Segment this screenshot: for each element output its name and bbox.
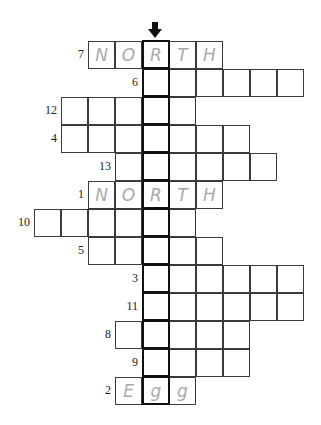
clue-number: 1: [62, 187, 84, 202]
crossword-cell[interactable]: [169, 237, 196, 265]
crossword-row-11: 11: [0, 293, 321, 321]
crossword-cell[interactable]: [142, 348, 170, 377]
crossword-cell[interactable]: [115, 321, 142, 349]
crossword-cell[interactable]: [169, 209, 196, 237]
crossword-cell[interactable]: [196, 153, 223, 181]
crossword-cell[interactable]: [142, 68, 170, 97]
crossword-cell[interactable]: [196, 293, 223, 321]
crossword-cell[interactable]: H: [196, 181, 223, 209]
clue-number: 10: [8, 215, 30, 230]
crossword-row-9: 9: [0, 349, 321, 377]
crossword-cell[interactable]: [223, 293, 250, 321]
crossword-cell[interactable]: [169, 69, 196, 97]
crossword-cell[interactable]: [115, 237, 142, 265]
crossword-cell[interactable]: [142, 152, 170, 181]
crossword-cell[interactable]: N: [88, 41, 115, 69]
crossword-row-7: 7NORTH: [0, 41, 321, 69]
crossword-cell[interactable]: [34, 209, 61, 237]
crossword-cell[interactable]: [223, 349, 250, 377]
crossword-cell[interactable]: [196, 237, 223, 265]
crossword-cell[interactable]: [88, 97, 115, 125]
clue-number: 13: [89, 159, 111, 174]
crossword-cell[interactable]: [142, 264, 170, 293]
crossword-row-3: 3: [0, 265, 321, 293]
crossword-cell[interactable]: [277, 293, 304, 321]
crossword-cell[interactable]: [169, 153, 196, 181]
crossword-cell[interactable]: R: [142, 180, 170, 209]
crossword-row-8: 8: [0, 321, 321, 349]
crossword-cell[interactable]: [223, 321, 250, 349]
crossword-cell[interactable]: [88, 209, 115, 237]
crossword-grid: 7NORTH6124131NORTH105311892Egg: [0, 0, 321, 425]
crossword-row-4: 4: [0, 125, 321, 153]
clue-number: 11: [116, 299, 138, 314]
crossword-cell[interactable]: [223, 69, 250, 97]
crossword-cell[interactable]: [142, 96, 170, 125]
crossword-cell[interactable]: [115, 209, 142, 237]
clue-number: 6: [116, 75, 138, 90]
clue-number: 7: [62, 47, 84, 62]
crossword-cell[interactable]: [223, 153, 250, 181]
crossword-row-6: 6: [0, 69, 321, 97]
crossword-cell[interactable]: g: [142, 376, 170, 405]
crossword-cell[interactable]: H: [196, 41, 223, 69]
crossword-cell[interactable]: [250, 265, 277, 293]
crossword-row-5: 5: [0, 237, 321, 265]
crossword-cell[interactable]: [223, 125, 250, 153]
crossword-cell[interactable]: [169, 349, 196, 377]
crossword-cell[interactable]: [169, 293, 196, 321]
crossword-row-10: 10: [0, 209, 321, 237]
crossword-cell[interactable]: [169, 125, 196, 153]
crossword-cell[interactable]: [169, 97, 196, 125]
crossword-cell[interactable]: [61, 97, 88, 125]
crossword-cell[interactable]: O: [115, 181, 142, 209]
crossword-cell[interactable]: [115, 97, 142, 125]
down-arrow-icon: [148, 22, 162, 38]
crossword-cell[interactable]: [88, 125, 115, 153]
crossword-cell[interactable]: [142, 124, 170, 153]
clue-number: 5: [62, 243, 84, 258]
crossword-cell[interactable]: O: [115, 41, 142, 69]
crossword-cell[interactable]: [142, 292, 170, 321]
clue-number: 12: [35, 103, 57, 118]
clue-number: 8: [89, 327, 111, 342]
crossword-cell[interactable]: [277, 69, 304, 97]
crossword-cell[interactable]: T: [169, 41, 196, 69]
clue-number: 2: [89, 383, 111, 398]
crossword-cell[interactable]: [277, 265, 304, 293]
clue-number: 3: [116, 271, 138, 286]
clue-number: 9: [116, 355, 138, 370]
crossword-cell[interactable]: [250, 293, 277, 321]
crossword-cell[interactable]: [250, 69, 277, 97]
crossword-cell[interactable]: E: [115, 377, 142, 405]
crossword-cell[interactable]: [196, 265, 223, 293]
crossword-cell[interactable]: R: [142, 40, 170, 69]
crossword-row-2: 2Egg: [0, 377, 321, 405]
crossword-row-1: 1NORTH: [0, 181, 321, 209]
clue-number: 4: [35, 131, 57, 146]
crossword-cell[interactable]: [169, 321, 196, 349]
crossword-cell[interactable]: [142, 236, 170, 265]
crossword-cell[interactable]: [196, 125, 223, 153]
crossword-cell[interactable]: [61, 209, 88, 237]
crossword-cell[interactable]: T: [169, 181, 196, 209]
crossword-cell[interactable]: [250, 153, 277, 181]
crossword-cell[interactable]: [223, 265, 250, 293]
crossword-cell[interactable]: [88, 237, 115, 265]
crossword-row-12: 12: [0, 97, 321, 125]
crossword-cell[interactable]: [115, 125, 142, 153]
crossword-cell[interactable]: [196, 321, 223, 349]
crossword-cell[interactable]: [142, 208, 170, 237]
crossword-cell[interactable]: [196, 349, 223, 377]
crossword-cell[interactable]: [61, 125, 88, 153]
crossword-cell[interactable]: g: [169, 377, 196, 405]
crossword-cell[interactable]: N: [88, 181, 115, 209]
crossword-cell[interactable]: [169, 265, 196, 293]
crossword-cell[interactable]: [115, 153, 142, 181]
crossword-cell[interactable]: [142, 320, 170, 349]
crossword-row-13: 13: [0, 153, 321, 181]
crossword-cell[interactable]: [196, 69, 223, 97]
